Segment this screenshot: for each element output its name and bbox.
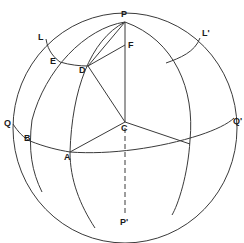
label-l: L	[38, 32, 44, 42]
label-p: P	[121, 9, 127, 19]
label-p-prime: P'	[120, 217, 128, 227]
meridian-pda	[70, 22, 125, 228]
label-a: A	[64, 152, 71, 162]
parallel-lel	[46, 38, 200, 66]
label-d: D	[79, 65, 86, 75]
label-q: Q	[4, 118, 11, 128]
label-l-prime: L'	[202, 28, 210, 38]
label-e: E	[50, 56, 56, 66]
label-b: B	[24, 133, 31, 143]
meridian-right	[125, 22, 191, 215]
label-q-prime: Q'	[233, 116, 242, 126]
label-c: C	[121, 123, 128, 133]
sphere-diagram: P F C P' L L' E D Q Q' B A	[0, 0, 244, 243]
label-f: F	[128, 40, 134, 50]
